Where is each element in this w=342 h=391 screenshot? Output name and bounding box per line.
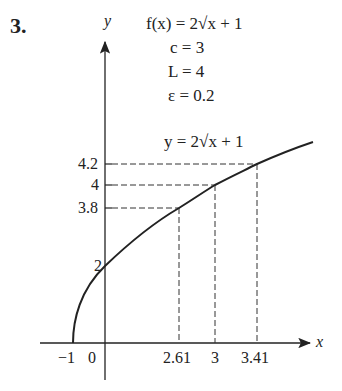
y-tick-3-8: 3.8 bbox=[78, 199, 98, 217]
curve-label: y = 2√x + 1 bbox=[164, 132, 244, 152]
y-tick-2: 2 bbox=[94, 257, 102, 275]
x-tick-neg1: −1 bbox=[58, 349, 75, 367]
dashed-guides bbox=[112, 164, 257, 343]
function-definition: f(x) = 2√x + 1 bbox=[146, 14, 243, 34]
graph-canvas bbox=[0, 0, 342, 391]
x-tick-0: 0 bbox=[88, 349, 96, 367]
x-axis-label: x bbox=[316, 333, 323, 351]
given-L: L = 4 bbox=[168, 62, 204, 82]
y-tick-4: 4 bbox=[91, 176, 99, 194]
function-curve bbox=[73, 142, 313, 343]
x-tick-3-41: 3.41 bbox=[241, 349, 269, 367]
y-axis-label: y bbox=[104, 12, 111, 30]
given-c: c = 3 bbox=[170, 38, 204, 58]
given-epsilon: ε = 0.2 bbox=[168, 86, 214, 106]
x-tick-2-61: 2.61 bbox=[163, 349, 191, 367]
x-tick-3: 3 bbox=[211, 349, 219, 367]
problem-number: 3. bbox=[10, 13, 27, 39]
y-tick-4-2: 4.2 bbox=[78, 155, 98, 173]
